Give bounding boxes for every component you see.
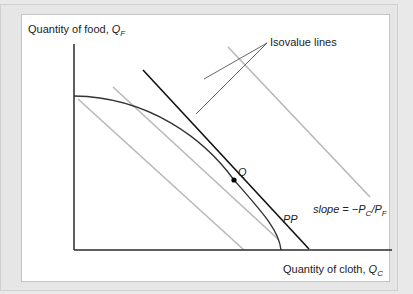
pp-curve [74, 96, 281, 250]
isovalue-line-inner [78, 99, 244, 250]
isovalue-line-middle [113, 87, 279, 240]
optimum-point-q [231, 177, 236, 182]
leader-line-2 [196, 43, 267, 114]
y-axis-label: Quantity of food, QF [28, 23, 126, 38]
isovalue-lines-label: Isovalue lines [270, 36, 337, 48]
point-q-label: Q [238, 166, 247, 178]
production-possibility-diagram: Quantity of food, QF Isovalue lines Q PP… [0, 0, 413, 294]
pp-curve-label: PP [283, 213, 298, 225]
leader-line-1 [204, 43, 267, 79]
x-axis-label: Quantity of cloth, QC [283, 263, 383, 278]
slope-label: slope = −PC/PF [313, 203, 388, 218]
isovalue-line-outer [228, 47, 370, 197]
